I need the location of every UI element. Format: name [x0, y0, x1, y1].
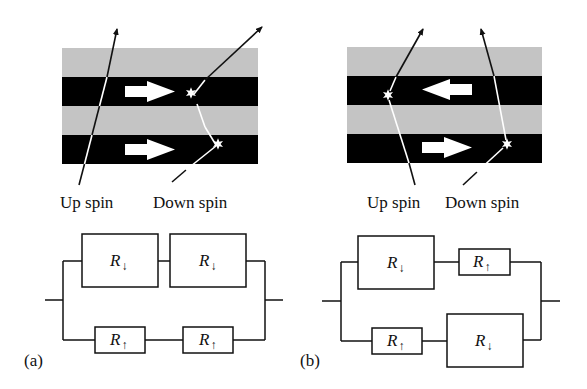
panel-label-b: (b) [300, 352, 320, 369]
panel-a-resistor-network [45, 234, 283, 353]
resistor-label-spin-up: R↑ [110, 331, 127, 348]
spacer-layer [62, 106, 258, 135]
down-spin-label: Down spin [153, 194, 227, 211]
panel-label-a: (a) [24, 352, 43, 369]
panel-b-resistor-network [322, 236, 560, 367]
spacer-layer [62, 48, 258, 77]
down-spin-label: Down spin [445, 194, 519, 211]
resistor-label-spin-down: R↓ [110, 252, 127, 269]
resistor-label-spin-down: R↓ [475, 332, 492, 349]
resistor-label-spin-up: R↑ [473, 253, 490, 270]
resistor-label-spin-up: R↑ [387, 332, 404, 349]
up-spin-label: Up spin [367, 194, 420, 211]
up-spin-label: Up spin [60, 194, 113, 211]
resistor-label-spin-up: R↑ [199, 331, 216, 348]
panel-b-layer-stack [347, 47, 542, 163]
resistor-label-spin-down: R↓ [199, 252, 216, 269]
spacer-layer [347, 47, 542, 76]
spacer-layer [347, 105, 542, 134]
resistor-label-spin-down: R↓ [387, 254, 404, 271]
panel-a-layer-stack [62, 48, 258, 164]
